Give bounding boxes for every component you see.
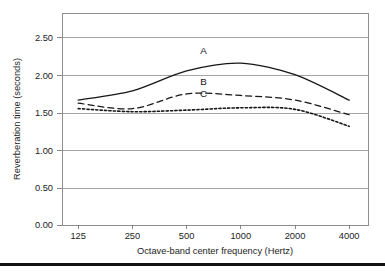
series-label-c: C: [200, 88, 207, 99]
y-tick-label-0-50: 0.50: [35, 183, 53, 193]
x-tick-label-125: 125: [70, 231, 86, 241]
bottom-divider-rule: [0, 263, 385, 266]
y-tick-label-2-00: 2.00: [35, 71, 53, 81]
x-tick-label-500: 500: [179, 231, 195, 241]
x-tick-label-250: 250: [125, 231, 141, 241]
series-label-a: A: [200, 45, 207, 56]
y-tick-label-0-00: 0.00: [35, 220, 53, 230]
x-tick-label-2000: 2000: [285, 231, 306, 241]
series-label-b: B: [200, 76, 207, 87]
x-axis-ticks: [78, 225, 349, 229]
y-axis-title: Reverberation time (seconds): [12, 58, 22, 180]
y-axis-tick-labels: 2.50 2.00 1.50 1.00 0.50 0.00: [35, 33, 53, 230]
y-tick-label-1-00: 1.00: [35, 146, 53, 156]
plot-background: [62, 13, 368, 225]
x-axis-tick-labels: 125 250 500 1000 2000 4000: [70, 231, 359, 241]
y-tick-label-1-50: 1.50: [35, 108, 53, 118]
x-axis-title: Octave-band center frequency (Hertz): [137, 246, 293, 256]
chart-canvas: 2.50 2.00 1.50 1.00 0.50 0.00 125 250 50…: [0, 0, 385, 271]
y-axis-ticks: [57, 38, 62, 225]
reverberation-time-chart-figure: 2.50 2.00 1.50 1.00 0.50 0.00 125 250 50…: [0, 0, 385, 271]
y-tick-label-2-50: 2.50: [35, 33, 53, 43]
x-tick-label-4000: 4000: [339, 231, 360, 241]
x-tick-label-1000: 1000: [230, 231, 251, 241]
